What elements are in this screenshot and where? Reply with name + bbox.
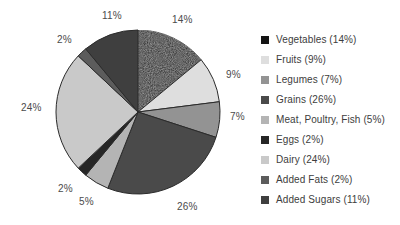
legend-item[interactable]: Fruits (9%): [261, 50, 397, 70]
legend-item[interactable]: Eggs (2%): [261, 130, 397, 150]
legend-color-swatch-icon: [261, 176, 269, 184]
slice-percent-label: 24%: [21, 103, 42, 113]
legend-color-swatch-icon: [261, 36, 269, 44]
legend-item-label: Meat, Poultry, Fish (5%): [276, 115, 385, 125]
legend-item-label: Eggs (2%): [276, 135, 324, 145]
legend-color-swatch-icon: [261, 156, 269, 164]
slice-percent-label: 9%: [226, 70, 241, 80]
slice-percent-label: 11%: [102, 11, 122, 21]
legend-item[interactable]: Dairy (24%): [261, 150, 397, 170]
legend-color-swatch-icon: [261, 136, 269, 144]
legend-color-swatch-icon: [261, 196, 269, 204]
legend-item-label: Added Sugars (11%): [276, 195, 370, 205]
slice-percent-label: 14%: [172, 15, 193, 25]
slice-percent-label: 2%: [57, 35, 72, 45]
slice-percent-label: 26%: [177, 202, 198, 212]
legend-color-swatch-icon: [261, 96, 269, 104]
legend-item[interactable]: Added Sugars (11%): [261, 190, 397, 210]
legend-item-label: Added Fats (2%): [276, 175, 353, 185]
pie-slices-group: [56, 30, 220, 194]
legend-item-label: Vegetables (14%): [276, 35, 357, 45]
legend-item-label: Fruits (9%): [276, 55, 326, 65]
slice-percent-label: 5%: [79, 197, 94, 207]
slice-percent-label: 7%: [230, 112, 245, 122]
slice-percent-label: 2%: [58, 184, 73, 194]
legend-item[interactable]: Meat, Poultry, Fish (5%): [261, 110, 397, 130]
pie-chart-figure: 14%9%7%26%5%2%24%2%11% Vegetables (14%)F…: [0, 0, 400, 225]
legend-item[interactable]: Legumes (7%): [261, 70, 397, 90]
chart-legend: Vegetables (14%)Fruits (9%)Legumes (7%)G…: [261, 30, 397, 210]
legend-item[interactable]: Added Fats (2%): [261, 170, 397, 190]
legend-color-swatch-icon: [261, 56, 269, 64]
legend-item-label: Legumes (7%): [276, 75, 342, 85]
legend-color-swatch-icon: [261, 116, 269, 124]
legend-item[interactable]: Vegetables (14%): [261, 30, 397, 50]
legend-color-swatch-icon: [261, 76, 269, 84]
legend-item-label: Grains (26%): [276, 95, 336, 105]
legend-item-label: Dairy (24%): [276, 155, 330, 165]
legend-item[interactable]: Grains (26%): [261, 90, 397, 110]
